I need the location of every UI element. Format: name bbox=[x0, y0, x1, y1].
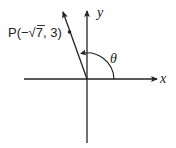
point-label-suffix: , 3) bbox=[43, 25, 62, 40]
point-label-radicand: 7 bbox=[36, 25, 43, 40]
y-axis-label: y bbox=[95, 5, 104, 20]
theta-label: θ bbox=[110, 51, 117, 66]
point-label-prefix: P( bbox=[8, 25, 22, 40]
point-p-marker bbox=[68, 30, 72, 34]
x-axis-label: x bbox=[159, 71, 167, 86]
point-p-label: P(−√7, 3) bbox=[8, 25, 62, 40]
terminal-ray bbox=[63, 12, 87, 79]
point-label-minus: − bbox=[21, 25, 29, 40]
coordinate-diagram: x y θ P(−√7, 3) bbox=[0, 0, 176, 148]
